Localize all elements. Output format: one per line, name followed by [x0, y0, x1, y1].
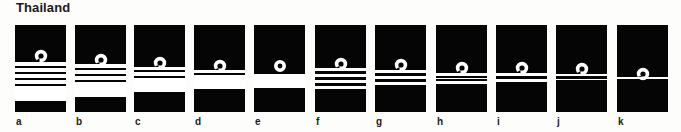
- shoulder-board-c: [134, 25, 185, 112]
- rank-insignia-icon: [315, 25, 366, 112]
- board-label-j: j: [557, 116, 560, 127]
- board-label-k: k: [618, 116, 624, 127]
- lace-stripe: [15, 68, 66, 72]
- curl-loop-icon: [214, 62, 225, 71]
- lace-stripe: [315, 86, 366, 89]
- rank-insignia-icon: [375, 25, 426, 112]
- lace-stripe: [436, 78, 487, 79]
- shoulder-board-i: [496, 25, 547, 112]
- board-label-a: a: [16, 116, 22, 127]
- rank-insignia-icon: [556, 25, 607, 112]
- board-label-f: f: [316, 116, 319, 127]
- curl-loop-icon: [637, 70, 648, 79]
- curl-loop-icon: [95, 56, 106, 65]
- lace-stripe: [15, 74, 66, 78]
- shoulder-board-a: [15, 25, 66, 112]
- board-label-d: d: [195, 116, 201, 127]
- shoulder-board-d: [194, 25, 245, 112]
- lace-stripe: [315, 74, 366, 77]
- curl-loop-icon: [516, 64, 527, 73]
- ring-icon: [276, 62, 284, 70]
- board-label-b: b: [76, 116, 82, 127]
- figure-title: Thailand: [16, 0, 70, 15]
- rank-insignia-icon: [134, 25, 185, 112]
- lace-stripe: [75, 82, 126, 97]
- lace-stripe: [194, 75, 245, 89]
- curl-loop-icon: [154, 59, 165, 68]
- lace-stripe: [134, 72, 185, 76]
- shoulder-board-j: [556, 25, 607, 112]
- shoulder-board-k: [617, 25, 668, 112]
- board-label-c: c: [135, 116, 141, 127]
- shoulder-board-e: [254, 25, 305, 112]
- board-label-h: h: [437, 116, 443, 127]
- board-label-i: i: [497, 116, 500, 127]
- lace-stripe: [254, 74, 305, 88]
- rank-insignia-icon: [436, 25, 487, 112]
- lace-stripe: [15, 86, 66, 101]
- lace-stripe: [315, 80, 366, 83]
- board-label-e: e: [255, 116, 261, 127]
- rank-insignia-icon: [254, 25, 305, 112]
- board-label-g: g: [376, 116, 382, 127]
- curl-loop-icon: [395, 61, 406, 70]
- shoulder-board-b: [75, 25, 126, 112]
- lace-stripe: [15, 80, 66, 84]
- curl-loop-icon: [456, 64, 467, 73]
- lace-stripe: [375, 82, 426, 85]
- lace-stripe: [556, 79, 607, 80]
- rank-insignia-icon: [75, 25, 126, 112]
- lace-stripe: [375, 76, 426, 79]
- lace-stripe: [75, 76, 126, 80]
- curl-loop-icon: [335, 60, 346, 69]
- lace-stripe: [15, 62, 66, 66]
- rank-insignia-icon: [15, 25, 66, 112]
- rank-insignia-icon: [617, 25, 668, 112]
- rank-insignia-icon: [194, 25, 245, 112]
- lace-stripe: [496, 79, 547, 82]
- shoulder-board-g: [375, 25, 426, 112]
- lace-stripe: [134, 78, 185, 92]
- shoulder-board-f: [315, 25, 366, 112]
- shoulder-board-h: [436, 25, 487, 112]
- lace-stripe: [436, 81, 487, 84]
- lace-stripe: [75, 70, 126, 74]
- curl-loop-icon: [576, 65, 587, 74]
- curl-loop-icon: [35, 52, 46, 62]
- rank-insignia-icon: [496, 25, 547, 112]
